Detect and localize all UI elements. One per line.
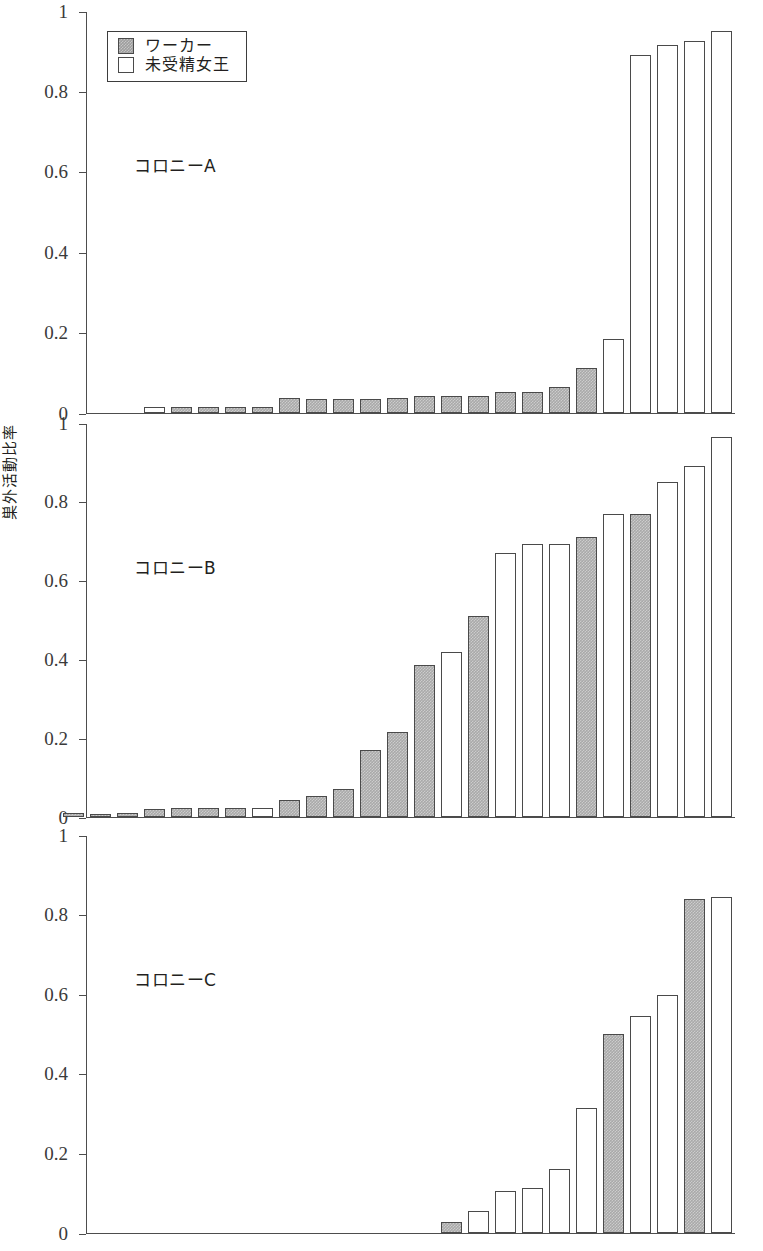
bar-b-25 bbox=[711, 437, 733, 817]
bar-c-1 bbox=[441, 1222, 463, 1233]
bar-b-15 bbox=[441, 652, 463, 817]
legend-swatch-queen-icon bbox=[118, 57, 134, 73]
chart-figure: 巣外活動比率 00.20.40.60.81 コロニーA ワーカー 未受精女王 0… bbox=[0, 0, 763, 1251]
bar-a-8 bbox=[333, 399, 355, 413]
bar-b-4 bbox=[144, 809, 166, 817]
y-tick-label-c-3: 0.6 bbox=[44, 984, 68, 1006]
bar-b-16 bbox=[468, 616, 490, 817]
y-tick-a-1: 0.2 bbox=[79, 333, 86, 334]
bar-b-23 bbox=[657, 482, 679, 817]
bar-a-11 bbox=[414, 396, 436, 413]
bar-a-5 bbox=[252, 407, 274, 413]
bar-b-22 bbox=[630, 514, 652, 817]
y-tick-label-b-5: 1 bbox=[59, 413, 69, 435]
panel-label-c: コロニーC bbox=[134, 966, 216, 991]
bar-b-21 bbox=[603, 514, 625, 817]
y-tick-c-4: 0.8 bbox=[79, 915, 86, 916]
bar-a-4 bbox=[225, 407, 247, 413]
bar-a-22 bbox=[711, 31, 733, 413]
y-tick-a-0: 0 bbox=[79, 414, 86, 415]
y-tick-label-b-2: 0.4 bbox=[44, 649, 68, 671]
bar-b-5 bbox=[171, 808, 193, 817]
bar-c-2 bbox=[468, 1211, 490, 1233]
plot-area-b: 00.20.40.60.81 コロニーB bbox=[86, 424, 735, 818]
bar-c-7 bbox=[603, 1034, 625, 1233]
legend-label-worker: ワーカー bbox=[145, 37, 213, 56]
y-tick-label-b-4: 0.8 bbox=[44, 491, 68, 513]
y-tick-label-c-1: 0.2 bbox=[44, 1143, 68, 1165]
bar-b-12 bbox=[360, 750, 382, 817]
y-tick-b-5: 1 bbox=[79, 424, 86, 425]
y-tick-label-a-2: 0.4 bbox=[44, 242, 68, 264]
legend-swatch-worker-icon bbox=[118, 38, 134, 54]
bar-b-17 bbox=[495, 553, 517, 817]
y-tick-c-3: 0.6 bbox=[79, 995, 86, 996]
bar-a-10 bbox=[387, 398, 409, 413]
bars-c bbox=[87, 836, 735, 1233]
bar-b-14 bbox=[414, 665, 436, 817]
y-tick-label-c-0: 0 bbox=[59, 1223, 69, 1245]
x-axis-line-c bbox=[86, 1233, 735, 1234]
y-tick-b-4: 0.8 bbox=[79, 502, 86, 503]
bar-b-8 bbox=[252, 808, 274, 817]
y-tick-a-5: 1 bbox=[79, 12, 86, 13]
bar-a-13 bbox=[468, 396, 490, 413]
panel-colony-c: 00.20.40.60.81 コロニーC bbox=[0, 836, 763, 1234]
panel-label-a: コロニーA bbox=[134, 152, 216, 177]
y-tick-a-4: 0.8 bbox=[79, 92, 86, 93]
panel-colony-b: 00.20.40.60.81 コロニーB bbox=[0, 424, 763, 818]
bar-a-20 bbox=[657, 45, 679, 413]
y-tick-label-b-1: 0.2 bbox=[44, 728, 68, 750]
bar-a-15 bbox=[522, 392, 544, 413]
bar-a-17 bbox=[576, 368, 598, 413]
panel-label-b: コロニーB bbox=[134, 554, 216, 579]
y-tick-label-a-4: 0.8 bbox=[44, 81, 68, 103]
y-tick-label-a-3: 0.6 bbox=[44, 161, 68, 183]
legend-item-worker: ワーカー bbox=[118, 37, 230, 56]
y-tick-c-5: 1 bbox=[79, 836, 86, 837]
bar-a-16 bbox=[549, 387, 571, 413]
bar-b-2 bbox=[90, 814, 112, 817]
legend-item-queen: 未受精女王 bbox=[118, 56, 230, 75]
y-tick-a-3: 0.6 bbox=[79, 172, 86, 173]
y-tick-label-c-2: 0.4 bbox=[44, 1063, 68, 1085]
bar-c-5 bbox=[549, 1169, 571, 1233]
legend-label-queen: 未受精女王 bbox=[145, 56, 230, 75]
bar-c-6 bbox=[576, 1108, 598, 1233]
bar-b-13 bbox=[387, 732, 409, 817]
bar-b-11 bbox=[333, 789, 355, 818]
bar-b-24 bbox=[684, 466, 706, 817]
bar-c-8 bbox=[630, 1016, 652, 1233]
bar-a-3 bbox=[198, 407, 220, 413]
y-tick-label-c-5: 1 bbox=[59, 825, 69, 847]
bar-a-2 bbox=[171, 407, 193, 413]
bar-a-21 bbox=[684, 41, 706, 413]
bar-b-7 bbox=[225, 808, 247, 817]
bar-c-3 bbox=[495, 1191, 517, 1233]
y-tick-c-2: 0.4 bbox=[79, 1074, 86, 1075]
bar-b-10 bbox=[306, 796, 328, 817]
y-tick-label-b-3: 0.6 bbox=[44, 570, 68, 592]
bar-c-10 bbox=[684, 899, 706, 1233]
y-tick-label-a-1: 0.2 bbox=[44, 322, 68, 344]
y-tick-c-0: 0 bbox=[79, 1234, 86, 1235]
bar-a-6 bbox=[279, 398, 301, 413]
bar-b-6 bbox=[198, 808, 220, 817]
y-tick-label-a-5: 1 bbox=[59, 1, 69, 23]
bar-a-1 bbox=[144, 407, 166, 413]
y-tick-b-2: 0.4 bbox=[79, 660, 86, 661]
panel-colony-a: 00.20.40.60.81 コロニーA ワーカー 未受精女王 bbox=[0, 12, 763, 414]
y-tick-b-3: 0.6 bbox=[79, 581, 86, 582]
x-axis-line-a bbox=[86, 413, 735, 414]
y-tick-c-1: 0.2 bbox=[79, 1154, 86, 1155]
bar-b-19 bbox=[549, 544, 571, 817]
bar-b-9 bbox=[279, 800, 301, 817]
bar-a-7 bbox=[306, 399, 328, 413]
bar-a-19 bbox=[630, 55, 652, 413]
bars-b bbox=[87, 424, 735, 817]
bar-c-11 bbox=[711, 897, 733, 1233]
bar-a-9 bbox=[360, 399, 382, 413]
y-tick-b-1: 0.2 bbox=[79, 739, 86, 740]
bar-c-4 bbox=[522, 1188, 544, 1233]
x-axis-line-b bbox=[86, 817, 735, 818]
